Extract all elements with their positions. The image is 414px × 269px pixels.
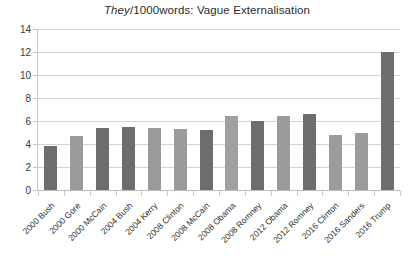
y-tick-10 xyxy=(33,75,37,76)
x-tick xyxy=(193,191,194,196)
x-axis-labels: 2000 Bush2000 Gore2000 McCain2004 Bush20… xyxy=(0,0,414,269)
x-tick xyxy=(322,191,323,196)
y-tick-0 xyxy=(33,190,37,191)
x-tick xyxy=(116,191,117,196)
y-tick-14 xyxy=(33,29,37,30)
x-tick xyxy=(348,191,349,196)
x-tick xyxy=(90,191,91,196)
x-tick xyxy=(141,191,142,196)
x-tick xyxy=(167,191,168,196)
y-tick-12 xyxy=(33,52,37,53)
x-tick xyxy=(271,191,272,196)
x-tick xyxy=(297,191,298,196)
y-tick-4 xyxy=(33,144,37,145)
x-tick xyxy=(64,191,65,196)
x-tick xyxy=(400,191,401,196)
y-tick-2 xyxy=(33,167,37,168)
x-tick xyxy=(374,191,375,196)
x-tick xyxy=(38,191,39,196)
x-tick xyxy=(245,191,246,196)
y-tick-6 xyxy=(33,121,37,122)
bar-chart: They/1000words: Vague Externalisation 02… xyxy=(0,0,414,269)
x-tick xyxy=(219,191,220,196)
y-tick-8 xyxy=(33,98,37,99)
